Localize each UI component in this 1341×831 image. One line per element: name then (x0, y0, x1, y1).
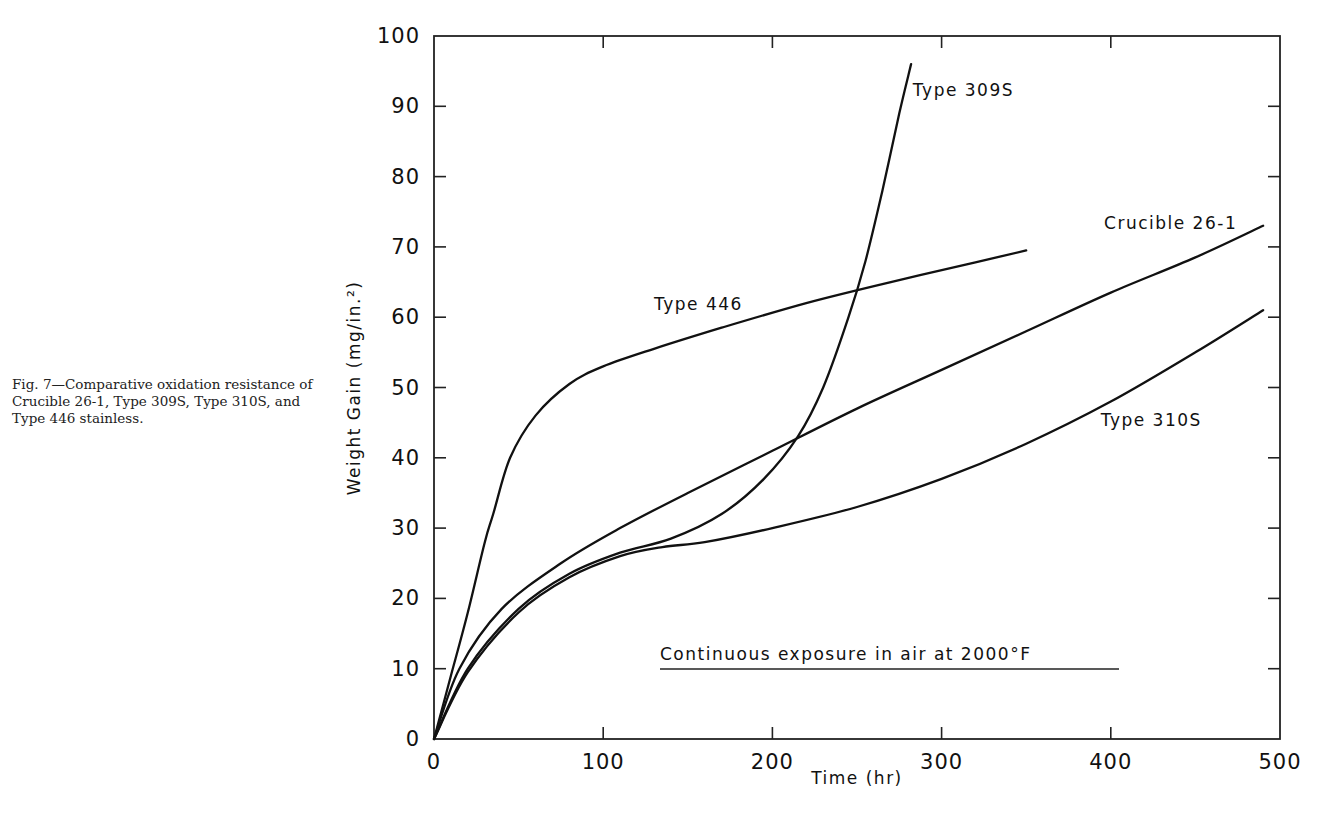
series-label-type-446: Type 446 (653, 294, 743, 314)
y-tick-label: 0 (406, 727, 420, 751)
x-tick-label: 100 (582, 750, 625, 774)
y-tick-label: 100 (377, 24, 420, 48)
y-tick-label: 50 (391, 376, 420, 400)
y-tick-label: 80 (391, 165, 420, 189)
line-chart: 01002003004005000102030405060708090100 T… (0, 0, 1341, 831)
x-axis-label: Time (hr) (810, 768, 903, 788)
y-tick-label: 20 (391, 586, 420, 610)
x-tick-label: 200 (751, 750, 794, 774)
x-tick-label: 300 (920, 750, 963, 774)
x-tick-label: 400 (1089, 750, 1132, 774)
x-tick-label: 0 (427, 750, 441, 774)
series-type-309s (434, 64, 911, 739)
series-label-crucible-26-1: Crucible 26-1 (1104, 213, 1237, 233)
plot-border (434, 36, 1280, 739)
x-tick-label: 500 (1258, 750, 1301, 774)
series-label-type-309s: Type 309S (912, 80, 1014, 100)
y-tick-label: 60 (391, 305, 420, 329)
y-tick-label: 30 (391, 516, 420, 540)
series-type-446 (434, 250, 1026, 739)
series-label-type-310s: Type 310S (1100, 410, 1202, 430)
series-labels: Type 446Type 309SType 310SCrucible 26-1 (653, 80, 1237, 430)
y-tick-label: 70 (391, 235, 420, 259)
y-tick-label: 90 (391, 94, 420, 118)
data-series (434, 64, 1263, 739)
y-axis-label: Weight Gain (mg/in.²) (344, 281, 364, 496)
series-type-310s (434, 310, 1263, 739)
plot-frame (434, 36, 1280, 739)
annotation-text: Continuous exposure in air at 2000°F (660, 644, 1031, 664)
y-tick-label: 40 (391, 446, 420, 470)
y-tick-label: 10 (391, 657, 420, 681)
